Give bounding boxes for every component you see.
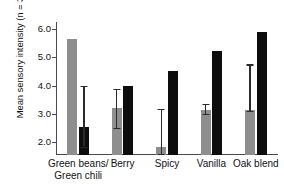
y-tick-mark xyxy=(52,86,56,87)
x-axis-category-labels: Green beans/Green chiliBerrySpicyVanilla… xyxy=(0,158,284,192)
error-bar-cap-4-lower xyxy=(247,111,254,112)
y-tick-mark xyxy=(52,57,56,58)
x-category-label-4: Oak blend xyxy=(196,158,284,170)
error-bar-cap-0-upper xyxy=(80,86,87,87)
bar-black-3 xyxy=(212,51,222,155)
error-bar-line-4 xyxy=(249,64,250,110)
error-bar-cap-2-lower xyxy=(158,154,165,155)
x-category-label-line1: Oak blend xyxy=(233,158,279,169)
error-bar-cap-1-lower xyxy=(113,128,120,129)
y-tick-label: 3.0 xyxy=(38,109,51,119)
y-tick-label: 2.0 xyxy=(38,138,51,148)
error-bar-line-2 xyxy=(161,109,162,153)
plot-area: 2.03.04.05.06.0 xyxy=(56,22,278,155)
error-bar-cap-1-upper xyxy=(113,89,120,90)
y-tick-mark xyxy=(52,142,56,143)
y-tick-mark xyxy=(52,114,56,115)
bar-black-1 xyxy=(123,86,133,155)
y-tick-label: 5.0 xyxy=(38,53,51,63)
bar-black-2 xyxy=(168,71,178,155)
error-bar-cap-4-upper xyxy=(247,64,254,65)
y-tick-label: 6.0 xyxy=(38,24,51,34)
y-tick-label: 4.0 xyxy=(38,81,51,91)
error-bar-cap-2-upper xyxy=(158,109,165,110)
bar-gray-4 xyxy=(245,110,255,155)
error-bar-cap-3-upper xyxy=(202,104,209,105)
error-bar-cap-3-lower xyxy=(202,114,209,115)
bar-gray-3 xyxy=(201,110,211,155)
error-bar-line-0 xyxy=(83,86,84,147)
error-bar-cap-0-lower xyxy=(80,147,87,148)
chart-figure: Mean sensory intensity (n = 33) 2.03.04.… xyxy=(0,0,284,192)
bar-gray-0 xyxy=(67,39,77,155)
bar-black-4 xyxy=(257,32,267,155)
y-axis-title: Mean sensory intensity (n = 33) xyxy=(14,0,25,129)
x-category-label-line2: Green chili xyxy=(18,170,138,182)
error-bar-line-3 xyxy=(205,104,206,114)
y-axis-line xyxy=(56,22,57,155)
error-bar-line-1 xyxy=(116,89,117,128)
y-tick-mark xyxy=(52,29,56,30)
